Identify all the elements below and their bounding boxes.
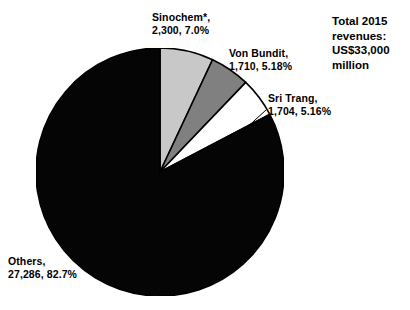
slice-label-sinochem-value: 2,300, 7.0% — [152, 24, 210, 37]
chart-total-caption: Total 2015 revenues: US$33,000 million — [332, 14, 410, 72]
chart-total-line-2: revenues: — [332, 29, 410, 44]
slice-label-sritrang-value: 1,704, 5.16% — [268, 105, 331, 118]
slice-label-vonbundit: Von Bundit, 1,710, 5.18% — [229, 47, 292, 72]
slice-label-others-value: 27,286, 82.7% — [8, 268, 77, 281]
chart-total-line-4: million — [332, 58, 410, 73]
slice-label-sritrang-name: Sri Trang, — [268, 92, 317, 104]
slice-label-others: Others, 27,286, 82.7% — [8, 255, 77, 280]
slice-label-vonbundit-name: Von Bundit, — [229, 47, 288, 59]
slice-label-vonbundit-value: 1,710, 5.18% — [229, 60, 292, 73]
slice-label-sritrang: Sri Trang, 1,704, 5.16% — [268, 92, 331, 117]
slice-label-others-name: Others, — [8, 255, 45, 267]
chart-total-line-3: US$33,000 — [332, 43, 410, 58]
slice-label-sinochem: Sinochem*, 2,300, 7.0% — [152, 11, 210, 36]
slice-label-sinochem-name: Sinochem*, — [152, 11, 210, 23]
pie-chart-figure: Sinochem*, 2,300, 7.0% Von Bundit, 1,710… — [0, 0, 410, 310]
chart-total-line-1: Total 2015 — [332, 14, 410, 29]
